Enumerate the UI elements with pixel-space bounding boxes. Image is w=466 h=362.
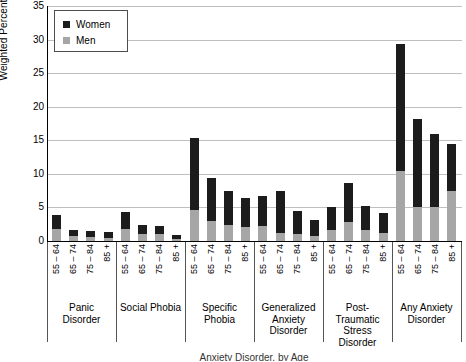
group-separator [185, 242, 186, 342]
x-tick-5-1: 65 – 74 [409, 242, 426, 300]
bar-segment-men [447, 191, 456, 241]
y-axis-tick-5: 5 [20, 203, 44, 211]
bar-specific-phobia-85+ [241, 198, 250, 241]
group-label-2: SpecificPhobia [185, 302, 254, 325]
bar-any-anxiety-disorder-85+ [447, 144, 456, 241]
bar-segment-men [241, 227, 250, 241]
anxiety-disorder-bar-chart: Weighted Percent 05101520253035 Women Me… [0, 0, 466, 362]
bar-segment-men [138, 234, 147, 241]
x-tick-label: 85 + [447, 244, 457, 262]
group-separator [461, 242, 462, 342]
bar-generalized-anxiety-disorder-75–84 [293, 211, 302, 241]
group-separator [116, 242, 117, 342]
x-tick-label: 75 – 84 [361, 244, 371, 274]
x-tick-label: 65 – 74 [275, 244, 285, 274]
x-tick-2-2: 75 – 84 [220, 242, 237, 300]
x-tick-4-3: 85 + [375, 242, 392, 300]
x-tick-0-0: 55 – 64 [47, 242, 64, 300]
group-label-3: GeneralizedAnxietyDisorder [254, 302, 323, 337]
bar-generalized-anxiety-disorder-65–74 [276, 191, 285, 241]
x-tick-0-3: 85 + [99, 242, 116, 300]
group-separator [392, 242, 393, 342]
bar-post-traumatic-stress-disorder-65–74 [344, 183, 353, 241]
bar-group-5 [392, 6, 461, 241]
group-label-line: Generalized [254, 302, 323, 314]
group-label-line: Panic [47, 302, 116, 314]
x-tick-5-2: 75 – 84 [427, 242, 444, 300]
legend-label-women: Women [76, 19, 110, 30]
y-axis-tick-35: 35 [20, 2, 44, 10]
x-tick-label: 75 – 84 [430, 244, 440, 274]
x-axis-labels: 55 – 6465 – 7475 – 8485 +55 – 6465 – 747… [47, 242, 461, 362]
group-label-line: Traumatic [323, 314, 392, 326]
bar-segment-men [379, 233, 388, 241]
x-tick-3-0: 55 – 64 [254, 242, 271, 300]
group-label-line: Social Phobia [116, 302, 185, 314]
bar-group-3 [254, 6, 323, 241]
x-tick-3-1: 65 – 74 [271, 242, 288, 300]
group-label-line: Disorder [392, 314, 461, 326]
legend-item-men: Men [63, 32, 127, 48]
bar-segment-men [224, 225, 233, 241]
x-axis-title: Anxiety Disorder, by Age [47, 352, 461, 361]
bar-social-phobia-75–84 [155, 226, 164, 241]
bar-any-anxiety-disorder-55–64 [396, 44, 405, 241]
x-tick-3-3: 85 + [306, 242, 323, 300]
legend-swatch-women-icon [63, 21, 70, 28]
y-axis-tick-list: 05101520253035 [16, 0, 44, 362]
bar-social-phobia-65–74 [138, 225, 147, 241]
x-tick-label: 65 – 74 [344, 244, 354, 274]
group-label-line: Specific [185, 302, 254, 314]
bar-panic-disorder-55–64 [52, 215, 61, 241]
group-label-line: Disorder [47, 314, 116, 326]
x-tick-4-2: 75 – 84 [358, 242, 375, 300]
bar-panic-disorder-75–84 [86, 231, 95, 241]
x-tick-0-1: 65 – 74 [64, 242, 81, 300]
x-tick-label: 75 – 84 [292, 244, 302, 274]
bar-segment-men [104, 238, 113, 241]
bar-segment-men [172, 239, 181, 241]
x-tick-2-0: 55 – 64 [185, 242, 202, 300]
x-tick-label: 55 – 64 [396, 244, 406, 274]
y-axis-tick-25: 25 [20, 69, 44, 77]
x-tick-label: 75 – 84 [154, 244, 164, 274]
bar-panic-disorder-65–74 [69, 230, 78, 241]
bar-segment-men [344, 222, 353, 241]
bar-specific-phobia-65–74 [207, 178, 216, 241]
group-label-line: Phobia [185, 314, 254, 326]
x-tick-label: 75 – 84 [223, 244, 233, 274]
x-tick-3-2: 75 – 84 [289, 242, 306, 300]
y-axis-tick-20: 20 [20, 103, 44, 111]
bar-specific-phobia-75–84 [224, 191, 233, 241]
group-label-line: Disorder [254, 325, 323, 337]
group-label-line: Anxiety [254, 314, 323, 326]
group-label-line: Post- [323, 302, 392, 314]
bar-segment-men [258, 226, 267, 241]
x-tick-label: 55 – 64 [189, 244, 199, 274]
bar-segment-men [69, 236, 78, 241]
x-tick-0-2: 75 – 84 [82, 242, 99, 300]
bar-segment-men [190, 210, 199, 241]
bar-specific-phobia-55–64 [190, 138, 199, 241]
group-label-line: Stress [323, 325, 392, 337]
x-tick-label: 85 + [102, 244, 112, 262]
bar-social-phobia-55–64 [121, 212, 130, 241]
x-tick-label: 65 – 74 [413, 244, 423, 274]
bar-segment-men [361, 230, 370, 241]
bar-segment-men [121, 229, 130, 241]
y-axis-tick-0: 0 [20, 237, 44, 245]
x-tick-label: 65 – 74 [137, 244, 147, 274]
legend-label-men: Men [76, 35, 95, 46]
bar-any-anxiety-disorder-75–84 [430, 134, 439, 241]
y-axis-tick-10: 10 [20, 170, 44, 178]
group-label-line: Any Anxiety [392, 302, 461, 314]
bar-generalized-anxiety-disorder-85+ [310, 220, 319, 241]
x-tick-label: 55 – 64 [327, 244, 337, 274]
legend-item-women: Women [63, 16, 127, 32]
x-tick-1-0: 55 – 64 [116, 242, 133, 300]
bar-panic-disorder-85+ [104, 232, 113, 241]
group-label-4: Post-TraumaticStressDisorder [323, 302, 392, 348]
x-tick-4-1: 65 – 74 [340, 242, 357, 300]
x-tick-5-0: 55 – 64 [392, 242, 409, 300]
bar-social-phobia-85+ [172, 235, 181, 241]
